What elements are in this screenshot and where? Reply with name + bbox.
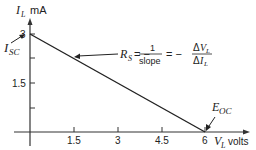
rs-label-sub: S bbox=[128, 54, 132, 63]
rs-equals-2: = − bbox=[166, 48, 182, 60]
frac1-denominator: slope bbox=[139, 56, 161, 66]
rs-arrowhead-icon bbox=[74, 54, 80, 60]
x-tick-label-3: 3 bbox=[115, 135, 121, 146]
isc-label-sub: SC bbox=[9, 47, 21, 57]
y-axis-arrow-icon bbox=[28, 18, 33, 25]
rs-label-main: R bbox=[119, 47, 128, 61]
x-axis-label-sub: L bbox=[220, 141, 226, 150]
rs-arrow bbox=[78, 54, 118, 56]
frac2-num-delta: Δ bbox=[193, 42, 200, 53]
y-axis-label-unit: mA bbox=[30, 4, 47, 16]
y-tick-label-1.5: 1.5 bbox=[12, 78, 26, 89]
x-axis-label-unit: volts bbox=[228, 136, 249, 147]
frac2-den-delta: Δ bbox=[193, 55, 200, 66]
x-tick-label-4.5: 4.5 bbox=[155, 135, 169, 146]
y-axis-label-sub: L bbox=[20, 10, 26, 19]
frac1-numerator: 1 bbox=[150, 43, 155, 53]
x-axis-arrow-icon bbox=[243, 130, 250, 135]
x-tick-label-6: 6 bbox=[202, 135, 208, 146]
eoc-label-sub: OC bbox=[219, 106, 232, 116]
frac2-den-sub: L bbox=[203, 60, 208, 68]
eoc-arrowhead-icon bbox=[206, 124, 211, 131]
x-tick-label-1.5: 1.5 bbox=[67, 135, 81, 146]
load-line-chart: 3 1.5 1.5 3 4.5 6 I L mA V L volts I SC … bbox=[0, 0, 256, 150]
